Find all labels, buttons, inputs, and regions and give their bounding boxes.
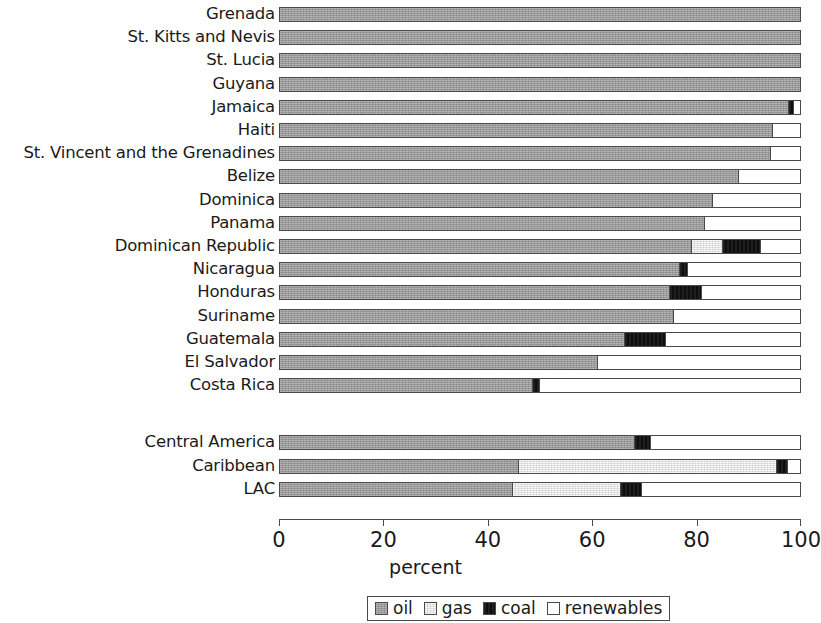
category-label: Nicaragua bbox=[193, 260, 275, 278]
legend-label: renewables bbox=[565, 599, 662, 618]
bar-segment-oil bbox=[280, 124, 773, 137]
stacked-bar bbox=[279, 123, 801, 138]
bar-segment-oil bbox=[280, 436, 635, 449]
bar-segment-gas bbox=[692, 240, 722, 253]
category-label: Dominica bbox=[199, 191, 275, 209]
legend-item-oil: oil bbox=[375, 599, 413, 618]
bar-segment-renewables bbox=[773, 124, 801, 137]
legend-label: oil bbox=[393, 599, 413, 618]
chart-row: Guatemala bbox=[0, 332, 813, 347]
category-label: St. Vincent and the Grenadines bbox=[23, 144, 275, 162]
bar-segment-coal bbox=[625, 333, 667, 346]
bar-segment-renewables bbox=[598, 356, 801, 369]
chart-row: El Salvador bbox=[0, 355, 813, 370]
bar-segment-renewables bbox=[705, 217, 801, 230]
stacked-bar bbox=[279, 7, 801, 22]
bar-segment-oil bbox=[280, 101, 789, 114]
bar-segment-coal bbox=[670, 286, 701, 299]
category-label: Belize bbox=[227, 167, 275, 185]
stacked-bar bbox=[279, 169, 801, 184]
bar-segment-coal bbox=[635, 436, 651, 449]
stacked-bar bbox=[279, 77, 801, 92]
x-axis-tick-label: 40 bbox=[474, 528, 501, 552]
chart-row: Caribbean bbox=[0, 459, 813, 474]
stacked-bar bbox=[279, 459, 801, 474]
bar-segment-oil bbox=[280, 263, 680, 276]
category-label: Guyana bbox=[213, 75, 276, 93]
x-axis-tick bbox=[592, 519, 593, 526]
bar-segment-renewables bbox=[702, 286, 801, 299]
coal-swatch bbox=[483, 602, 496, 615]
stacked-bar bbox=[279, 332, 801, 347]
chart-row: Suriname bbox=[0, 309, 813, 324]
chart-row: Dominican Republic bbox=[0, 239, 813, 254]
x-axis-tick-label: 100 bbox=[781, 528, 821, 552]
stacked-bar bbox=[279, 216, 801, 231]
legend-item-coal: coal bbox=[483, 599, 536, 618]
stacked-bar bbox=[279, 378, 801, 393]
chart-row: St. Lucia bbox=[0, 53, 813, 68]
chart-row: Costa Rica bbox=[0, 378, 813, 393]
chart-row: Haiti bbox=[0, 123, 813, 138]
category-label: Central America bbox=[145, 433, 275, 451]
bar-segment-oil bbox=[280, 194, 713, 207]
bar-segment-oil bbox=[280, 460, 519, 473]
legend-label: coal bbox=[501, 599, 536, 618]
x-axis-tick bbox=[488, 519, 489, 526]
bar-segment-renewables bbox=[794, 101, 801, 114]
legend-item-renewables: renewables bbox=[547, 599, 662, 618]
bar-segment-renewables bbox=[642, 483, 801, 496]
category-label: Jamaica bbox=[211, 98, 275, 116]
category-label: Panama bbox=[210, 214, 275, 232]
bar-segment-oil bbox=[280, 170, 739, 183]
bar-segment-renewables bbox=[688, 263, 801, 276]
bar-segment-renewables bbox=[651, 436, 801, 449]
bar-segment-renewables bbox=[713, 194, 801, 207]
chart-row: Honduras bbox=[0, 285, 813, 300]
bar-segment-oil bbox=[280, 333, 625, 346]
legend-item-gas: gas bbox=[424, 599, 472, 618]
bar-segment-oil bbox=[280, 31, 801, 44]
bar-segment-renewables bbox=[674, 310, 801, 323]
bar-segment-oil bbox=[280, 483, 513, 496]
bar-segment-oil bbox=[280, 8, 801, 21]
bar-segment-renewables bbox=[788, 460, 801, 473]
stacked-bar bbox=[279, 100, 801, 115]
stacked-bar bbox=[279, 355, 801, 370]
bar-segment-coal bbox=[723, 240, 762, 253]
x-axis-tick bbox=[383, 519, 384, 526]
chart-row: Central America bbox=[0, 435, 813, 450]
category-label: Suriname bbox=[198, 307, 276, 325]
bar-segment-oil bbox=[280, 147, 771, 160]
stacked-bar bbox=[279, 309, 801, 324]
x-axis: 020406080100 bbox=[0, 519, 813, 559]
chart-row: LAC bbox=[0, 482, 813, 497]
bar-segment-coal bbox=[621, 483, 642, 496]
stacked-bar bbox=[279, 193, 801, 208]
stacked-bar bbox=[279, 53, 801, 68]
x-axis-line bbox=[279, 519, 801, 520]
bar-segment-oil bbox=[280, 286, 670, 299]
chart-row: Jamaica bbox=[0, 100, 813, 115]
oil-swatch bbox=[375, 602, 388, 615]
category-label: El Salvador bbox=[185, 353, 275, 371]
x-axis-tick-label: 0 bbox=[272, 528, 285, 552]
stacked-bar bbox=[279, 262, 801, 277]
gas-swatch bbox=[424, 602, 437, 615]
chart-row: St. Kitts and Nevis bbox=[0, 30, 813, 45]
x-axis-tick-label: 60 bbox=[579, 528, 606, 552]
category-label: Dominican Republic bbox=[115, 237, 275, 255]
category-label: St. Kitts and Nevis bbox=[127, 28, 275, 46]
stacked-bar bbox=[279, 30, 801, 45]
bar-segment-gas bbox=[513, 483, 621, 496]
bar-segment-oil bbox=[280, 78, 801, 91]
bar-segment-renewables bbox=[761, 240, 801, 253]
bar-segment-oil bbox=[280, 240, 692, 253]
bar-segment-oil bbox=[280, 356, 598, 369]
x-axis-tick bbox=[697, 519, 698, 526]
bar-segment-oil bbox=[280, 217, 705, 230]
renewables-swatch bbox=[547, 602, 560, 615]
stacked-bar bbox=[279, 146, 801, 161]
chart-row: Nicaragua bbox=[0, 262, 813, 277]
